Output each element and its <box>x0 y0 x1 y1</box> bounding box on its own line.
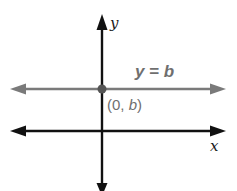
y-axis-down-arrow-icon <box>97 183 108 191</box>
y-axis-up-arrow-icon <box>97 14 108 30</box>
line-left-arrow-icon <box>10 84 26 95</box>
point-label-close: ) <box>137 96 142 113</box>
equation-rhs: b <box>164 62 174 81</box>
horizontal-line-y-equals-b <box>10 84 226 95</box>
equation-label: y = b <box>135 63 174 80</box>
x-axis-right-arrow-icon <box>210 126 226 137</box>
y-axis-label: y <box>110 16 118 31</box>
point-label-open: (0, <box>107 96 129 113</box>
y-axis <box>97 14 108 191</box>
x-axis-left-arrow-icon <box>10 126 26 137</box>
point-label: (0, b) <box>107 97 142 112</box>
x-axis <box>10 126 226 137</box>
equation-equals: = <box>144 62 163 81</box>
y-intercept-point <box>98 85 107 94</box>
line-right-arrow-icon <box>210 84 226 95</box>
point-label-var: b <box>129 96 137 113</box>
x-axis-label: x <box>210 139 218 154</box>
